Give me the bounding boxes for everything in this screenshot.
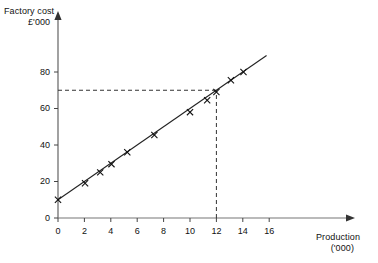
axes [54,11,355,222]
x-tick-label: 0 [50,227,66,236]
y-tick-label: 40 [28,141,50,150]
x-tick-label: 8 [156,227,172,236]
plot-area [0,0,378,263]
data-point [240,69,246,75]
axis-ticks [54,72,269,222]
data-point [187,109,193,115]
x-tick-label: 4 [103,227,119,236]
x-tick-label: 10 [182,227,198,236]
y-tick-label: 80 [28,68,50,77]
data-point [204,97,210,103]
x-tick-label: 14 [235,227,251,236]
x-tick-label: 16 [261,227,277,236]
x-tick-label: 6 [129,227,145,236]
y-tick-label: 20 [28,177,50,186]
y-axis-arrow-icon [54,11,61,20]
y-tick-label: 60 [28,104,50,113]
data-point [228,77,234,83]
regression-line [58,56,267,200]
y-tick-label: 0 [28,214,50,223]
line-of-best-fit [58,56,267,200]
x-tick-label: 2 [76,227,92,236]
factory-cost-production-chart: Factory cost £'000 Production ('000) 024… [0,0,378,263]
x-tick-label: 12 [208,227,224,236]
x-axis-arrow-icon [346,214,355,221]
data-point [124,149,130,155]
